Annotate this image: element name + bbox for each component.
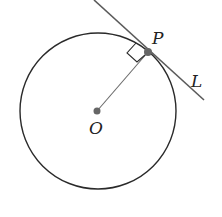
label-O: O — [89, 118, 103, 138]
tangent-diagram: P O L — [0, 0, 222, 217]
point-P — [144, 48, 152, 56]
label-L: L — [190, 71, 202, 91]
point-O — [94, 108, 101, 115]
radius-OP — [97, 52, 148, 111]
label-P: P — [151, 28, 164, 48]
